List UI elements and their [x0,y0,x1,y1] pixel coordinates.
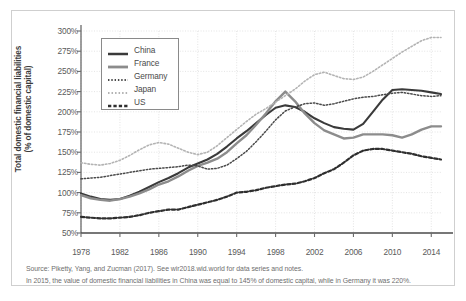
x-tick-label: 2010 [384,247,402,257]
x-tick-label: 2014 [422,247,440,257]
chart-plot-area: Total domestic financial liabilities (% … [12,11,456,241]
chart-svg [12,11,456,241]
x-tick-label: 1978 [72,247,90,257]
legend-label: Japan [134,84,156,94]
legend-swatch-france-icon [107,58,129,68]
x-tick-label: 1982 [111,247,129,257]
x-tick-label: 1986 [150,247,168,257]
legend-swatch-japan-icon [107,84,129,94]
legend-item-germany[interactable]: Germany [107,69,178,82]
x-axis-ticks: 1978198219861990199419982002200620102014 [12,247,456,261]
legend-item-china[interactable]: China [107,43,178,56]
footnote-block: Source: Piketty, Yang, and Zucman (2017)… [26,263,446,286]
x-tick-label: 2002 [306,247,324,257]
x-tick-label: 1994 [228,247,246,257]
legend-swatch-germany-icon [107,71,129,81]
legend-item-france[interactable]: France [107,56,178,69]
series-line-us [81,149,441,218]
legend-item-japan[interactable]: Japan [107,82,178,95]
footnote-note: In 2015, the value of domestic financial… [26,275,446,287]
legend-label: France [134,58,159,68]
footnote-source: Source: Piketty, Yang, and Zucman (2017)… [26,263,446,275]
legend-swatch-us-icon [107,97,129,107]
legend-label: Germany [134,71,167,81]
x-tick-label: 1990 [189,247,207,257]
legend-swatch-china-icon [107,45,129,55]
legend-item-us[interactable]: US [107,95,178,108]
x-tick-label: 2006 [345,247,363,257]
figure-panel: Total domestic financial liabilities (% … [11,10,455,286]
x-tick-label: 1998 [267,247,285,257]
legend-label: US [134,97,145,107]
legend-label: China [134,45,155,55]
chart-legend: ChinaFranceGermanyJapanUS [101,38,179,110]
